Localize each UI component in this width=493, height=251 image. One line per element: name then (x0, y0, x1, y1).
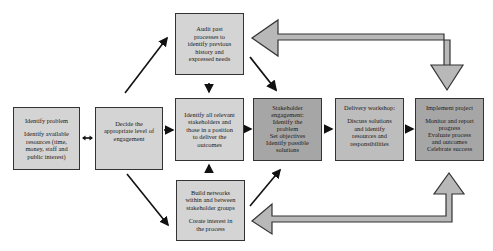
box-line: appropriate level of (104, 127, 154, 134)
box-line: Identify all relevant (184, 111, 234, 118)
arrow-decide-to-audit (125, 38, 167, 93)
box-line: Discuss solutions (347, 117, 392, 124)
identify-problem-title: Identify problem (25, 117, 68, 124)
box-line: expressed needs (189, 55, 230, 62)
box-line: outcomes (197, 141, 222, 148)
identify-stakeholders-box: Identify all relevant stakeholders and t… (175, 98, 244, 161)
box-line: Identify available (24, 130, 69, 137)
box-line: resources and (352, 132, 387, 139)
box-line: responsibilities (350, 140, 389, 147)
box-line: Evaluate process (428, 131, 471, 138)
box-line: progress (439, 124, 461, 131)
box-line: stakeholder groups (186, 204, 234, 211)
box-line: Create interest in (189, 217, 233, 224)
delivery-workshop-title: Delivery workshop: (344, 104, 395, 111)
box-line: history and (195, 48, 224, 55)
box-line: Celebrate success (427, 145, 472, 152)
arrow-audit-to-stakeholder (250, 57, 276, 90)
decide-level-box: Decide the appropriate level of engageme… (95, 107, 163, 170)
box-line: Monitor and report (425, 117, 474, 124)
box-line: processes to (194, 33, 225, 40)
box-line: the process (196, 225, 225, 232)
stakeholder-engagement-box: Stakeholder engagement: Identify the pro… (253, 98, 322, 161)
box-line: those in a position (186, 126, 233, 133)
box-line: Build networks (191, 189, 230, 196)
identify-problem-box: Identify problem Identify available reso… (13, 107, 80, 170)
box-line: Decide the (115, 120, 143, 127)
build-networks-box: Build networks within and between stakeh… (176, 180, 245, 241)
box-line: money, staff and (25, 145, 67, 152)
box-line: within and between (185, 196, 235, 203)
delivery-workshop-box: Delivery workshop: Discuss solutions and… (335, 98, 404, 161)
box-line: engagement (114, 135, 145, 142)
box-line: public interest) (27, 153, 66, 160)
box-line: resources (time, (26, 138, 67, 145)
implement-project-title: Implement project (426, 104, 473, 111)
box-line: and outcomes (432, 138, 467, 145)
box-line: Audit past (196, 25, 222, 32)
box-line: identify previous (188, 40, 231, 47)
box-line: to deliver the (193, 133, 227, 140)
feedback-arrow-top-icon (252, 20, 463, 90)
box-line: stakeholders and (188, 118, 231, 125)
feedback-arrow-bottom-icon (252, 173, 464, 234)
box-line: and identify (354, 125, 385, 132)
bidirectional-arrow-icon (82, 136, 93, 141)
arrow-decide-to-build (127, 174, 168, 225)
box-line: solutions (276, 147, 299, 154)
audit-box: Audit past processes to identify previou… (175, 13, 244, 75)
arrow-build-to-stakeholder (250, 170, 280, 206)
implement-project-box: Implement project Monitor and report pro… (415, 98, 484, 161)
